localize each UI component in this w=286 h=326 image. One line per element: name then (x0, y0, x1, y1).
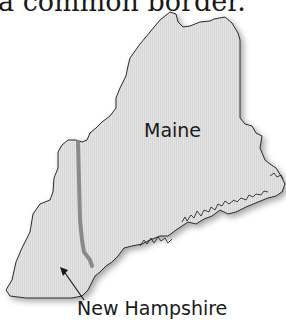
land-outline (6, 12, 285, 298)
label-maine: Maine (144, 119, 201, 141)
label-new-hampshire: New Hampshire (77, 297, 227, 319)
maine-new-hampshire-map (0, 0, 286, 326)
